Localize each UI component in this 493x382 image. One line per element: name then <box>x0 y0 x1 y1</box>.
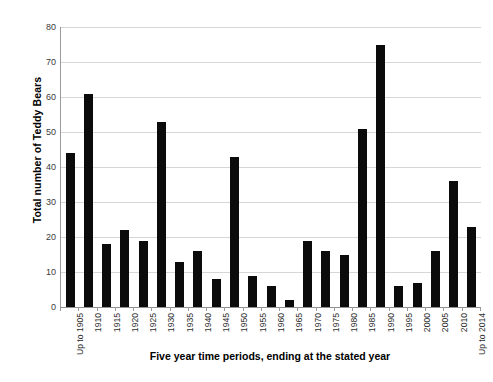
y-axis-tick-labels: 01020304050607080 <box>30 18 56 318</box>
x-tick-mark <box>425 307 426 311</box>
y-tick-label: 50 <box>30 127 56 137</box>
bar <box>467 227 476 308</box>
y-tick-label: 0 <box>30 302 56 312</box>
bar-chart: Total number of Teddy Bears 010203040506… <box>0 0 493 382</box>
x-axis-title: Five year time periods, ending at the st… <box>60 350 480 362</box>
x-tick-mark <box>261 307 262 311</box>
bar <box>248 276 257 308</box>
bar <box>175 262 184 308</box>
bar <box>431 251 440 307</box>
bar <box>376 45 385 308</box>
bar <box>230 157 239 308</box>
y-tick-label: 70 <box>30 57 56 67</box>
x-tick-mark <box>133 307 134 311</box>
bar <box>267 286 276 307</box>
y-tick-label: 60 <box>30 92 56 102</box>
x-tick-mark <box>115 307 116 311</box>
y-tick-label: 40 <box>30 162 56 172</box>
x-tick-mark <box>279 307 280 311</box>
x-tick-mark <box>170 307 171 311</box>
bar <box>193 251 202 307</box>
x-tick-mark <box>352 307 353 311</box>
x-tick-mark <box>78 307 79 311</box>
x-tick-mark <box>316 307 317 311</box>
bar <box>303 241 312 308</box>
x-tick-mark <box>151 307 152 311</box>
x-tick-mark <box>60 307 61 311</box>
x-tick-mark <box>443 307 444 311</box>
bar <box>358 129 367 308</box>
x-tick-mark <box>407 307 408 311</box>
x-tick-mark <box>224 307 225 311</box>
bar <box>413 283 422 308</box>
x-tick-mark <box>334 307 335 311</box>
x-tick-mark <box>480 307 481 311</box>
x-tick-mark <box>188 307 189 311</box>
bar <box>394 286 403 307</box>
bar <box>321 251 330 307</box>
bar <box>340 255 349 308</box>
x-tick-mark <box>389 307 390 311</box>
bar <box>285 300 294 307</box>
bar-series <box>61 27 481 307</box>
bar <box>102 244 111 307</box>
x-tick-mark <box>97 307 98 311</box>
bar <box>157 122 166 308</box>
plot-area <box>60 27 481 307</box>
y-tick-label: 30 <box>30 197 56 207</box>
bar <box>139 241 148 308</box>
bar <box>449 181 458 307</box>
x-tick-mark <box>206 307 207 311</box>
bar <box>212 279 221 307</box>
x-tick-mark <box>462 307 463 311</box>
y-tick-label: 20 <box>30 232 56 242</box>
bar <box>84 94 93 308</box>
x-tick-mark <box>243 307 244 311</box>
y-tick-label: 10 <box>30 267 56 277</box>
x-tick-mark <box>370 307 371 311</box>
bar <box>120 230 129 307</box>
bar <box>66 153 75 307</box>
x-tick-mark <box>297 307 298 311</box>
y-tick-label: 80 <box>30 22 56 32</box>
